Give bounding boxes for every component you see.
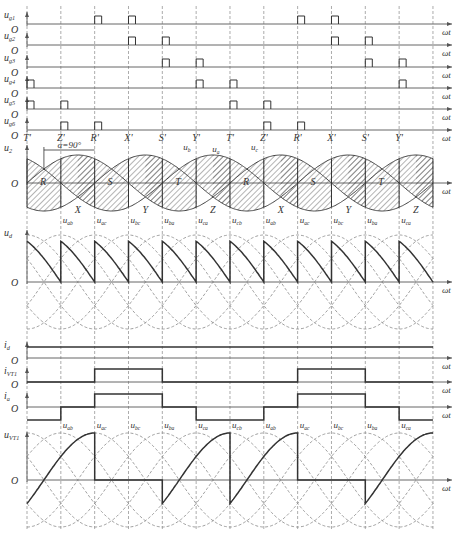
line-voltage-label: ucb [232, 215, 242, 226]
arrow-icon [447, 22, 452, 26]
gate-pulse [298, 16, 305, 24]
omega-t-label: ωt [442, 186, 451, 196]
omega-t-label: ωt [442, 361, 451, 371]
omega-t-label: ωt [442, 70, 451, 80]
origin-label: O [11, 277, 18, 288]
origin-label: O [11, 109, 18, 120]
gate-pulse [399, 59, 406, 67]
gate-pulse [298, 122, 305, 130]
line-voltage-label: ucb [232, 420, 242, 431]
commutation-point-lower: Z [413, 204, 419, 215]
arrow-icon [447, 478, 452, 482]
curve-label-ua: ua [212, 144, 220, 155]
line-voltage-label: ubc [130, 215, 140, 226]
origin-label: O [11, 24, 18, 35]
alpha-text: α=90° [58, 140, 82, 150]
gate-pulse [230, 101, 237, 109]
arrow-icon [447, 43, 452, 47]
origin-label: O [11, 379, 18, 390]
arrow-icon [447, 405, 452, 409]
line-voltage-label: uca [198, 215, 208, 226]
line-voltage-label: uac [300, 215, 310, 226]
origin-label: O [11, 475, 18, 486]
line-voltage-label: uac [97, 420, 107, 431]
origin-label: O [11, 355, 18, 366]
line-voltage-label: uab [266, 420, 276, 431]
arrow-icon [447, 356, 452, 360]
line-voltage-label: uca [401, 420, 411, 431]
arrow-icon [25, 33, 29, 38]
origin-label: O [11, 45, 18, 56]
line-voltage-label: uab [266, 215, 276, 226]
line-voltage-label: ubc [333, 420, 343, 431]
arrow-icon [447, 128, 452, 132]
curve-label-ub: ub [183, 142, 191, 153]
uvt1-waveform [27, 433, 433, 504]
pulse-marker: R' [293, 132, 303, 143]
arrow-icon [25, 118, 29, 123]
ug1-y-label: ug1 [4, 9, 15, 21]
ivt1-y-label: iVT1 [4, 365, 17, 377]
pulse-marker: T' [226, 132, 235, 143]
line-voltage-label: ubc [130, 420, 140, 431]
gate-pulse [365, 37, 372, 45]
pulse-marker: Y' [192, 132, 201, 143]
origin-label: O [11, 130, 18, 141]
pulse-marker: X' [123, 132, 133, 143]
line-voltage-label: uab [63, 420, 73, 431]
line-voltage-label: uba [367, 420, 377, 431]
gate-pulse [196, 59, 203, 67]
gate-pulse [230, 80, 237, 88]
commutation-point-upper: S [108, 176, 113, 187]
origin-label: O [11, 403, 18, 414]
pulse-marker: S' [362, 132, 370, 143]
gate-pulse [61, 122, 68, 130]
commutation-point-lower: X [277, 204, 285, 215]
origin-label: O [11, 67, 18, 78]
arrow-icon [25, 12, 29, 17]
ia-y-label: ia [4, 390, 10, 402]
ivt1-waveform [27, 369, 433, 382]
pulse-marker: S' [159, 132, 167, 143]
gate-pulse [264, 122, 271, 130]
gate-pulse [27, 80, 34, 88]
omega-t-label: ωt [442, 27, 451, 37]
pulse-marker: Y' [395, 132, 404, 143]
gate-pulse [27, 101, 34, 109]
omega-t-label: ωt [442, 112, 451, 122]
pulse-marker: X' [326, 132, 336, 143]
line-voltage-label: uca [198, 420, 208, 431]
line-voltage-label: uca [401, 215, 411, 226]
gate-pulse [365, 59, 372, 67]
gate-pulse [399, 80, 406, 88]
commutation-point-lower: Y [142, 204, 149, 215]
arrow-icon [447, 181, 452, 185]
commutation-point-lower: X [74, 204, 82, 215]
waveform-diagram: ωtug1Oωtug2Oωtug3Oωtug4Oωtug5Oωtug6OT'Z'… [0, 0, 463, 538]
commutation-point-upper: R [39, 176, 46, 187]
omega-t-label: ωt [442, 133, 451, 143]
gate-pulse [162, 59, 169, 67]
gate-pulse [95, 122, 102, 130]
arrow-icon [447, 86, 452, 90]
arrow-icon [25, 55, 29, 60]
commutation-point-lower: Y [345, 204, 352, 215]
gate-pulse [264, 101, 271, 109]
commutation-point-upper: R [242, 176, 249, 187]
arrow-icon [447, 107, 452, 111]
line-voltage-label: uac [97, 215, 107, 226]
commutation-point-lower: Z [210, 204, 216, 215]
line-voltage-label: uac [300, 420, 310, 431]
line-voltage-label: uba [164, 420, 174, 431]
waveform-svg: ωtug1Oωtug2Oωtug3Oωtug4Oωtug5Oωtug6OT'Z'… [0, 0, 463, 538]
line-voltage-label: uba [164, 215, 174, 226]
curve-label-uc: uc [251, 142, 259, 153]
pulse-marker: Z' [260, 132, 269, 143]
pulse-marker: T' [23, 132, 32, 143]
u2-y-label: u2 [4, 142, 12, 154]
arrow-icon [447, 280, 452, 284]
omega-t-label: ωt [442, 285, 451, 295]
ud-y-label: ud [4, 227, 13, 239]
omega-t-label: ωt [442, 483, 451, 493]
line-voltage-label: ubc [333, 215, 343, 226]
